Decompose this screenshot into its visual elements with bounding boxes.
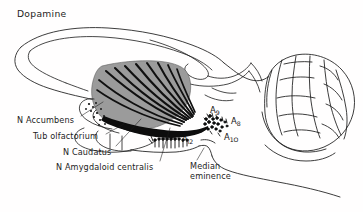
a9-letter: A — [210, 105, 216, 115]
label-cell-group-a10: A1O — [224, 132, 238, 142]
label-cell-group-a8: A8 — [231, 116, 241, 126]
midbrain-contours — [205, 88, 236, 101]
figure-title: Dopamine — [17, 9, 67, 19]
a10-number: 1O — [230, 136, 239, 143]
label-cell-group-a9: A9 — [210, 105, 220, 115]
label-cell-group-a12: Al2 — [182, 134, 193, 144]
label-n-accumbens: N Accumbens — [17, 115, 74, 125]
a9-number: 9 — [216, 109, 220, 116]
dopamine-pathway-figure: Dopamine N Accumbens Tub olfactorium N C… — [0, 0, 363, 212]
brainstem-junction — [249, 63, 262, 92]
label-median-eminence: Median eminence — [190, 161, 231, 181]
label-n-amygdaloid-centralis: N Amygdaloid centralis — [56, 162, 153, 172]
cerebellum — [262, 54, 355, 161]
sagittal-brain-drawing — [0, 0, 363, 212]
a10-letter: A — [224, 132, 230, 142]
a12-number: l2 — [188, 138, 193, 145]
label-tub-olfactorium: Tub olfactorium — [33, 131, 98, 141]
label-n-caudatus: N Caudatus — [63, 147, 112, 157]
a12-letter: A — [182, 134, 188, 144]
a8-number: 8 — [237, 120, 241, 127]
hypothalamus-base-outline — [131, 140, 340, 197]
label-median-eminence-line1: Median — [190, 161, 220, 171]
a8-letter: A — [231, 116, 237, 126]
leader-median-eminence — [197, 148, 204, 160]
label-median-eminence-line2: eminence — [190, 171, 231, 181]
